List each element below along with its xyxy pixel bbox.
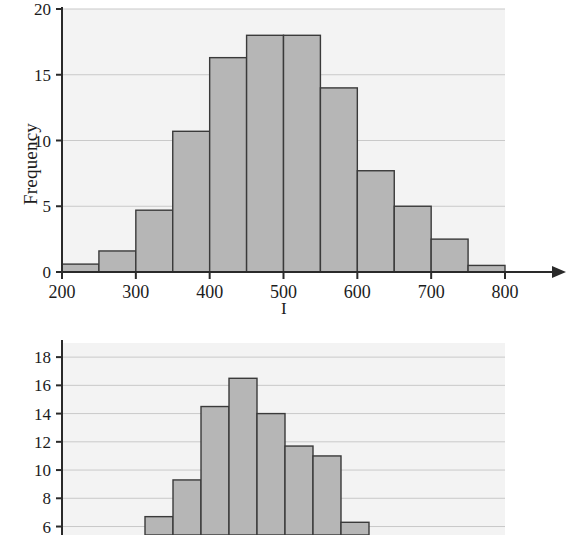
x-axis-tick-label: 400 — [196, 282, 223, 302]
histogram-bar — [320, 88, 357, 272]
y-axis-tick-label: 6 — [43, 518, 52, 535]
histogram-bar — [173, 480, 201, 535]
y-axis-tick-label: 5 — [43, 197, 52, 216]
histogram-bar — [173, 131, 210, 272]
histogram-bar — [285, 446, 313, 535]
histogram-bar — [431, 239, 468, 272]
y-axis-tick-label: 0 — [43, 263, 52, 282]
histogram-bar — [136, 210, 173, 272]
y-axis-tick-label: 10 — [34, 461, 51, 480]
y-axis-tick-label: 14 — [34, 405, 52, 424]
histogram-bar — [257, 414, 285, 535]
x-axis-arrow-icon — [552, 266, 566, 278]
histogram-bar — [99, 251, 136, 272]
y-axis-tick-label: 18 — [34, 348, 51, 367]
histogram-bar — [247, 35, 284, 272]
histogram-bar — [394, 206, 431, 272]
histogram-top: Frequency I 0510152020030040050060070080… — [0, 0, 570, 330]
figure-page: Frequency I 0510152020030040050060070080… — [0, 0, 570, 535]
y-axis-label-top: Frequency — [20, 123, 42, 205]
histogram-bottom-canvas: 681012141618 — [0, 330, 570, 535]
histogram-bar — [313, 456, 341, 535]
y-axis-tick-label: 20 — [34, 0, 51, 19]
histogram-bar — [357, 171, 394, 272]
x-axis-tick-label: 700 — [418, 282, 445, 302]
histogram-bar — [210, 58, 247, 272]
histogram-bar — [62, 264, 99, 272]
y-axis-tick-label: 15 — [34, 66, 51, 85]
histogram-bar — [341, 522, 369, 535]
histogram-bar — [229, 378, 257, 535]
histogram-bar — [201, 407, 229, 535]
histogram-top-canvas: 05101520200300400500600700800 — [0, 0, 570, 330]
y-axis-tick-label: 12 — [34, 433, 51, 452]
histogram-bar — [145, 517, 173, 535]
x-axis-tick-label: 200 — [49, 282, 76, 302]
x-axis-tick-label: 800 — [492, 282, 519, 302]
x-axis-label-top: I — [281, 299, 287, 319]
y-axis-tick-label: 8 — [43, 489, 52, 508]
histogram-bar — [284, 35, 321, 272]
y-axis-tick-label: 16 — [34, 376, 51, 395]
x-axis-tick-label: 300 — [122, 282, 149, 302]
histogram-bottom: Frequency 681012141618 — [0, 330, 570, 535]
x-axis-tick-label: 600 — [344, 282, 371, 302]
